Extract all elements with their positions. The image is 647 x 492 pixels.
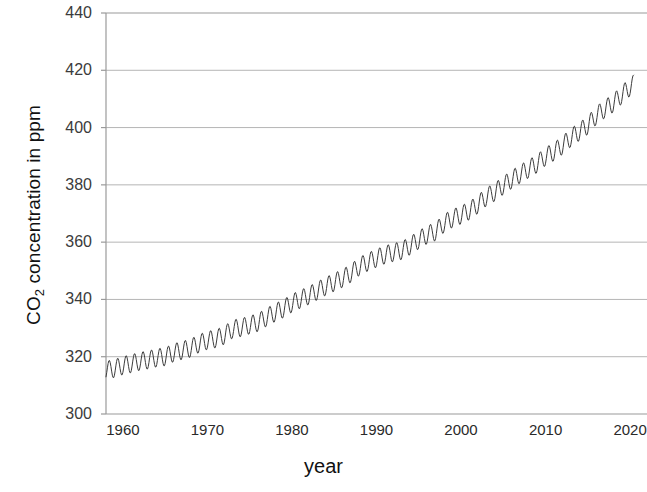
y-tick-marks [101,13,106,414]
co2-keeling-curve-figure: CO2 concentration in ppm 300320340360380… [0,0,647,492]
co2-data-line [106,75,634,377]
x-axis-title: year [0,455,647,478]
axis-lines [106,13,647,414]
gridlines [106,70,647,356]
plot-area [0,0,647,492]
